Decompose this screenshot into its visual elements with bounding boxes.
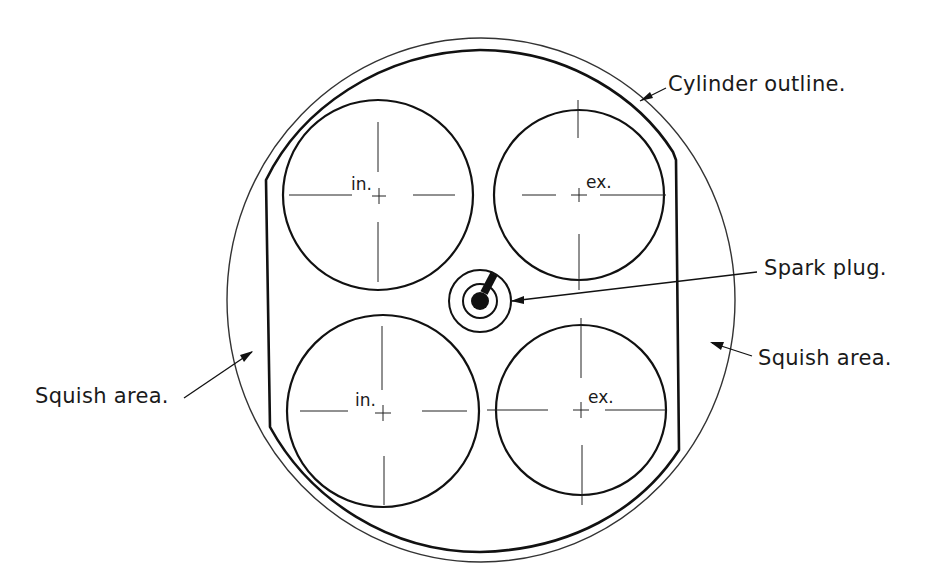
cylinder-outline-leader (640, 88, 666, 101)
intake-lower-label: in. (355, 390, 376, 410)
spark-plug (449, 270, 511, 332)
exhaust-valve-lower (487, 318, 666, 505)
squish-area-right-label: Squish area. (758, 346, 892, 370)
intake-upper-label: in. (351, 174, 372, 194)
spark-plug-leader (511, 272, 757, 304)
cylinder-outline-label: Cylinder outline. (668, 72, 846, 96)
intake-valve-upper (283, 100, 473, 290)
squish-area-left-label: Squish area. (35, 384, 169, 408)
exhaust-lower-label: ex. (588, 387, 614, 407)
exhaust-upper-label: ex. (586, 172, 612, 192)
intake-valve-lower (287, 315, 479, 507)
spark-plug-label: Spark plug. (764, 256, 887, 280)
exhaust-valve-upper (494, 100, 666, 290)
